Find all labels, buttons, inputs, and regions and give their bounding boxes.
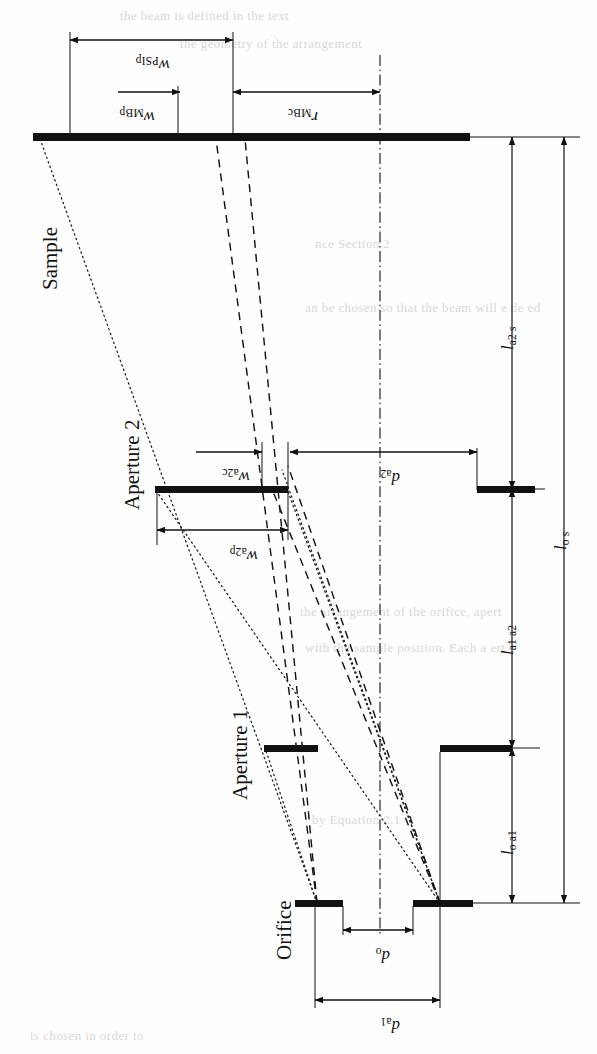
dimension-label-w-mbp: wMBp	[119, 107, 155, 127]
w-a2p-sub: a2p	[229, 546, 246, 558]
dimension-label-r-mbc: rMBc	[288, 107, 318, 127]
l-a1a2-sub: a1 a2	[506, 625, 518, 651]
dimension-label-d-a2: da2	[380, 468, 400, 488]
d-o-var: d	[382, 947, 391, 966]
dimension-label-d-o: do	[376, 946, 390, 966]
dimension-label-l-a1a2: la1 a2	[498, 625, 518, 655]
component-label-aperture1: Aperture 1	[228, 710, 253, 800]
l-a2s-sub: a2 s	[506, 326, 518, 345]
component-aperture2	[155, 486, 535, 493]
r-mbc-sub: MBc	[288, 107, 312, 119]
component-orifice	[295, 900, 473, 907]
w-mbp-sub: MBp	[119, 107, 143, 119]
diagram-canvas	[0, 0, 597, 1054]
dimension-witness-lines-orifice	[315, 752, 440, 1008]
l-os-sub: o s	[559, 532, 571, 546]
w-psip-sub: PSIp	[135, 55, 158, 67]
l-oa1-sub: o a1	[506, 830, 518, 850]
dimension-label-l-oa1: lo a1	[498, 830, 518, 855]
w-a2c-sub: a2c	[222, 467, 239, 479]
component-sample	[33, 133, 470, 141]
w-a2c-var: w	[239, 468, 250, 487]
l-oa1-var: l	[498, 850, 517, 855]
w-psip-var: w	[159, 56, 170, 75]
d-a1-sub: a1	[380, 1016, 391, 1028]
dimension-label-d-a1: da1	[380, 1016, 400, 1036]
l-a2s-var: l	[498, 345, 517, 350]
d-a1-var: d	[392, 1017, 401, 1036]
w-mbp-var: w	[144, 108, 155, 127]
component-label-sample: Sample	[38, 227, 63, 290]
dimension-label-w-a2p: wa2p	[229, 546, 258, 566]
d-o-sub: o	[376, 946, 382, 958]
dimension-label-w-a2c: wa2c	[222, 467, 250, 487]
l-os-var: l	[551, 545, 570, 550]
dimension-label-l-a2s: la2 s	[498, 326, 518, 350]
l-a1a2-var: l	[498, 650, 517, 655]
r-mbc-var: r	[311, 108, 318, 127]
d-a2-var: d	[392, 469, 401, 488]
w-a2p-var: w	[247, 547, 258, 566]
dimension-label-w-psip: wPSIp	[135, 55, 170, 75]
component-label-orifice: Orifice	[272, 901, 297, 960]
component-label-aperture2: Aperture 2	[120, 420, 145, 510]
figure-page: the beam is defined in the textthe geome…	[0, 0, 597, 1054]
component-aperture1	[264, 745, 512, 752]
d-a2-sub: a2	[380, 468, 391, 480]
dimension-label-l-os: lo s	[551, 532, 571, 550]
